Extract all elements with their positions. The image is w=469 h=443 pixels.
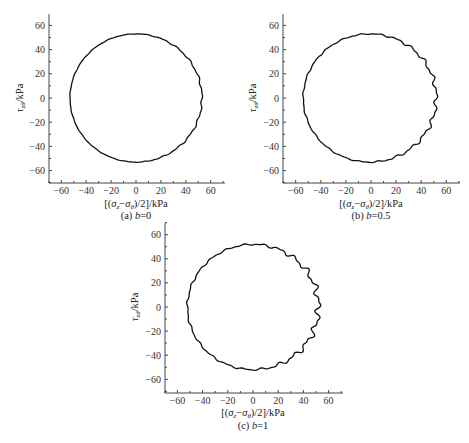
y-tick-label: 0 — [274, 93, 279, 104]
stress-path-a — [70, 34, 203, 162]
x-tick-label: −20 — [338, 185, 354, 196]
y-tick-label: −60 — [29, 165, 45, 176]
y-tick-label: −60 — [145, 374, 161, 385]
y-tick-label: 60 — [269, 20, 279, 31]
x-tick-label: −60 — [288, 185, 304, 196]
y-tick-label: 0 — [156, 302, 161, 313]
caption-a: (a) b=0 — [121, 210, 152, 222]
y-axis-title-c: τzθ/kPa — [129, 292, 142, 321]
y-tick-label: −20 — [29, 117, 45, 128]
x-tick-label: 60 — [441, 185, 451, 196]
x-tick-label: −20 — [103, 185, 119, 196]
axes-c: −60−40−200204060−60−40−200204060 — [145, 223, 343, 406]
y-tick-label: 20 — [35, 68, 45, 79]
x-tick-label: −40 — [78, 185, 94, 196]
y-tick-label: 20 — [269, 68, 279, 79]
panel-c: −60−40−200204060−60−40−200204060 τzθ/kPa… — [129, 223, 343, 432]
y-axis-title-a: τzθ/kPa — [14, 83, 27, 112]
y-tick-label: 60 — [151, 229, 161, 240]
x-tick-label: 20 — [391, 185, 401, 196]
x-tick-label: −40 — [195, 395, 211, 406]
y-tick-label: −20 — [263, 117, 279, 128]
x-tick-label: −60 — [170, 395, 186, 406]
x-tick-label: −40 — [313, 185, 329, 196]
stress-path-c — [187, 244, 321, 371]
stress-path-b — [303, 34, 438, 163]
y-tick-label: −20 — [145, 326, 161, 337]
x-tick-label: −20 — [220, 395, 236, 406]
y-axis-title-b: τzθ/kPa — [247, 83, 260, 112]
x-tick-label: 60 — [206, 185, 216, 196]
y-tick-label: −40 — [263, 141, 279, 152]
x-tick-label: 0 — [134, 185, 139, 196]
y-tick-label: −40 — [29, 141, 45, 152]
y-tick-label: 40 — [35, 44, 45, 55]
y-tick-label: −60 — [263, 165, 279, 176]
caption-b: (b) b=0.5 — [351, 210, 390, 222]
x-axis-title-c: [(σz−σθ)/2]/kPa — [221, 407, 285, 420]
y-tick-label: 0 — [40, 93, 45, 104]
figure-canvas: −60−40−200204060−60−40−200204060 τzθ/kPa… — [0, 0, 469, 443]
axes-b: −60−40−200204060−60−40−200204060 — [263, 14, 460, 196]
y-tick-label: 20 — [151, 277, 161, 288]
panel-b: −60−40−200204060−60−40−200204060 τzθ/kPa… — [247, 14, 460, 222]
y-tick-label: 60 — [35, 20, 45, 31]
y-tick-label: −40 — [145, 350, 161, 361]
axes-a: −60−40−200204060−60−40−200204060 — [29, 14, 225, 196]
x-tick-label: 40 — [298, 395, 308, 406]
x-tick-label: 60 — [324, 395, 334, 406]
x-tick-label: 0 — [251, 395, 256, 406]
y-tick-label: 40 — [151, 253, 161, 264]
x-tick-label: 20 — [273, 395, 283, 406]
y-tick-label: 40 — [269, 44, 279, 55]
x-tick-label: −60 — [53, 185, 69, 196]
panel-a: −60−40−200204060−60−40−200204060 τzθ/kPa… — [14, 14, 225, 222]
x-tick-label: 20 — [156, 185, 166, 196]
x-tick-label: 0 — [369, 185, 374, 196]
x-tick-label: 40 — [416, 185, 426, 196]
caption-c: (c) b=1 — [238, 420, 269, 432]
x-tick-label: 40 — [181, 185, 191, 196]
